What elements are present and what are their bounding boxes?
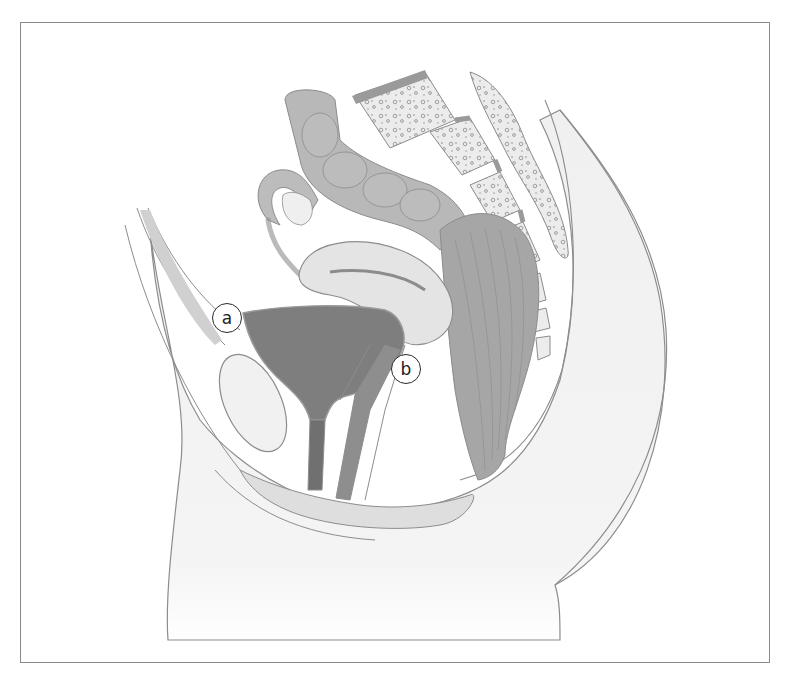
label-a-text: a: [222, 310, 232, 327]
label-b-text: b: [401, 361, 412, 378]
label-b: b: [391, 354, 421, 384]
rectum: [440, 214, 539, 480]
label-a: a: [212, 303, 242, 333]
urethra: [308, 420, 325, 490]
pelvis-sagittal-illustration: [0, 0, 795, 677]
